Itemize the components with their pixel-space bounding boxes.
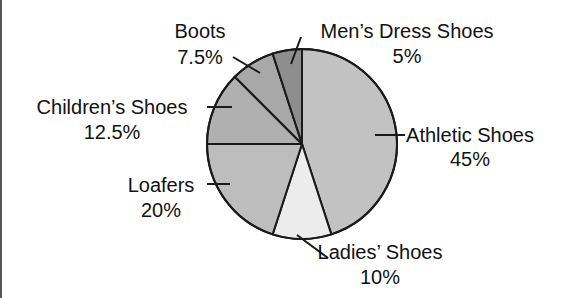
label-loafers: Loafers 20% bbox=[128, 174, 195, 221]
label-loafers-pct: 20% bbox=[141, 199, 181, 221]
label-children-name: Children’s Shoes bbox=[37, 96, 188, 118]
label-mens-name: Men’s Dress Shoes bbox=[320, 20, 493, 42]
label-athletic-name: Athletic Shoes bbox=[406, 124, 534, 146]
label-boots: Boots 7.5% bbox=[174, 20, 225, 68]
label-boots-pct: 7.5% bbox=[177, 46, 223, 68]
label-children: Children’s Shoes 12.5% bbox=[37, 96, 188, 143]
label-ladies-pct: 10% bbox=[360, 266, 400, 288]
label-athletic: Athletic Shoes 45% bbox=[406, 124, 534, 170]
label-ladies: Ladies’ Shoes 10% bbox=[318, 241, 443, 288]
label-mens-pct: 5% bbox=[393, 45, 422, 67]
label-ladies-name: Ladies’ Shoes bbox=[318, 241, 443, 263]
pie-chart: Athletic Shoes 45% Ladies’ Shoes 10% Loa… bbox=[0, 0, 570, 298]
label-athletic-pct: 45% bbox=[450, 148, 490, 170]
label-children-pct: 12.5% bbox=[84, 121, 141, 143]
label-loafers-name: Loafers bbox=[128, 174, 195, 196]
label-boots-name: Boots bbox=[174, 20, 225, 42]
